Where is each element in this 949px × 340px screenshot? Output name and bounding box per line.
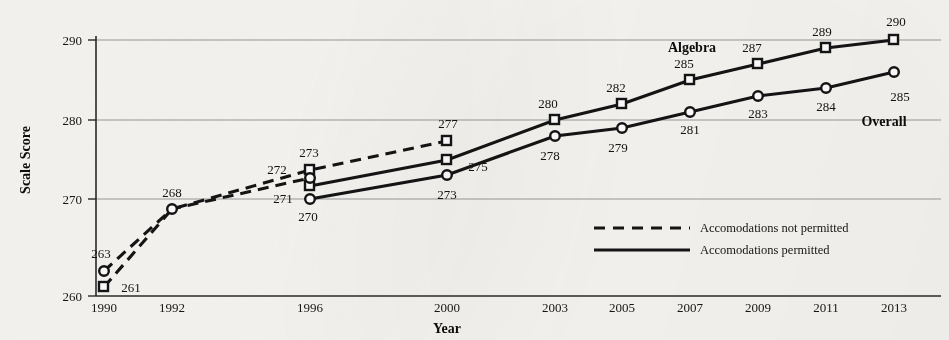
marker-square-2000-277	[442, 136, 451, 145]
data-label-2005-282: 282	[606, 80, 626, 95]
data-label-1990-263: 263	[91, 246, 111, 261]
data-label-2009-287: 287	[742, 40, 762, 55]
x-tick-label-2013: 2013	[881, 300, 907, 315]
marker-circle-1996-272	[305, 173, 315, 183]
data-label-2011-289: 289	[812, 24, 832, 39]
chart-svg: 290 280 270 260 Scale Score 1990 1992 19…	[0, 0, 949, 340]
data-label-1996-273: 273	[299, 145, 319, 160]
y-axis-title: Scale Score	[18, 126, 33, 194]
data-label-1990-261: 261	[121, 280, 141, 295]
x-tick-label-2011: 2011	[813, 300, 839, 315]
marker-circle-1996-270	[305, 194, 315, 204]
marker-square-2007-285	[685, 75, 694, 84]
algebra-solid-line	[310, 40, 894, 186]
marker-square-2005-282	[617, 99, 626, 108]
x-axis-title: Year	[433, 321, 461, 336]
data-label-2000-277: 277	[438, 116, 458, 131]
data-label-2013-290: 290	[886, 14, 906, 29]
data-label-2005-279: 279	[608, 140, 628, 155]
marker-circle-2005-279	[617, 123, 627, 133]
marker-square-1990-261	[99, 282, 108, 291]
x-tick-label-1992: 1992	[159, 300, 185, 315]
x-tick-label-2009: 2009	[745, 300, 771, 315]
y-tick-label-290: 290	[63, 33, 83, 48]
x-tick-label-1996: 1996	[297, 300, 324, 315]
data-label-2007-281: 281	[680, 122, 700, 137]
legend-label-permitted: Accomodations permitted	[700, 243, 830, 257]
series-annotation-algebra: Algebra	[668, 40, 716, 55]
y-tick-label-260: 260	[63, 289, 83, 304]
data-label-2011-284: 284	[816, 99, 836, 114]
data-label-1996-271: 271	[273, 191, 293, 206]
chart-figure: 290 280 270 260 Scale Score 1990 1992 19…	[0, 0, 949, 340]
data-label-2007-285: 285	[674, 56, 694, 71]
data-label-2013-285: 285	[890, 89, 910, 104]
data-label-2000-275: 275	[468, 159, 488, 174]
marker-square-2013-290	[889, 35, 898, 44]
marker-circle-2011-284	[821, 83, 831, 93]
x-tick-label-2000: 2000	[434, 300, 460, 315]
series-overall	[104, 72, 894, 271]
legend: Accomodations not permitted Accomodation…	[594, 221, 849, 257]
legend-label-not-permitted: Accomodations not permitted	[700, 221, 849, 235]
data-label-1996-270: 270	[298, 209, 318, 224]
marker-square-2009-287	[753, 59, 762, 68]
marker-circle-2000-273	[442, 170, 452, 180]
y-tick-label-270: 270	[63, 192, 83, 207]
marker-circle-1990-263	[99, 266, 109, 276]
data-label-2003-278: 278	[540, 148, 560, 163]
marker-square-2000-275	[442, 155, 451, 164]
x-tick-label-2005: 2005	[609, 300, 635, 315]
marker-circle-1992-268	[167, 204, 177, 214]
series-annotation-overall: Overall	[861, 114, 906, 129]
marker-circle-2003-278	[550, 131, 560, 141]
marker-square-2003-280	[550, 115, 559, 124]
marker-square-2011-289	[821, 43, 830, 52]
x-tick-label-1990: 1990	[91, 300, 117, 315]
data-label-1996-272: 272	[267, 162, 287, 177]
data-label-1992-268: 268	[162, 185, 182, 200]
gridlines	[96, 40, 941, 296]
data-label-2009-283: 283	[748, 106, 768, 121]
x-tick-label-2007: 2007	[677, 300, 704, 315]
data-label-2000-273: 273	[437, 187, 457, 202]
y-tick-label-280: 280	[63, 113, 83, 128]
overall-solid-line	[310, 72, 894, 199]
x-tick-label-2003: 2003	[542, 300, 568, 315]
data-label-2003-280: 280	[538, 96, 558, 111]
marker-circle-2013-285	[889, 67, 899, 77]
marker-circle-2007-281	[685, 107, 695, 117]
marker-circle-2009-283	[753, 91, 763, 101]
